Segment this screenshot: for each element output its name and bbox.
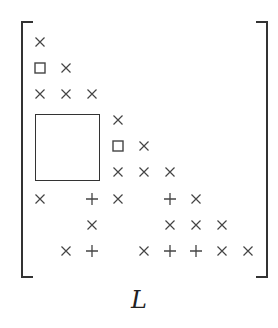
cross-icon [82,84,102,104]
matrix-label: L [0,286,278,314]
square-icon [108,136,128,156]
cross-icon [56,58,76,78]
cross-icon [30,84,50,104]
right-bracket [256,21,268,278]
cross-icon [186,215,206,235]
cross-icon [160,162,180,182]
plus-icon [186,241,206,261]
cross-icon [134,162,154,182]
cross-icon [30,189,50,209]
plus-icon [160,189,180,209]
cross-icon [56,241,76,261]
cross-icon [30,32,50,52]
dense-block [35,114,100,181]
cross-icon [186,189,206,209]
plus-icon [160,241,180,261]
cross-icon [238,241,258,261]
cross-icon [82,215,102,235]
cross-icon [108,110,128,130]
cross-icon [212,241,232,261]
plus-icon [82,189,102,209]
cross-icon [56,84,76,104]
cross-icon [134,136,154,156]
plus-icon [82,241,102,261]
cross-icon [134,241,154,261]
cross-icon [212,215,232,235]
cross-icon [160,215,180,235]
square-icon [30,58,50,78]
cross-icon [108,189,128,209]
cross-icon [108,162,128,182]
